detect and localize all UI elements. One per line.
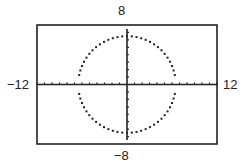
circle-point xyxy=(88,114,90,116)
ymax-label: 8 xyxy=(118,4,125,17)
circle-point xyxy=(83,106,85,108)
circle-point xyxy=(79,69,81,71)
circle-point xyxy=(126,35,128,37)
circle-point xyxy=(79,98,81,100)
circle-point xyxy=(140,37,142,39)
circle-point xyxy=(157,46,159,48)
circle-point xyxy=(169,61,171,63)
circle-point xyxy=(103,126,105,128)
circle-point xyxy=(99,43,101,45)
circle-point xyxy=(83,61,85,63)
circle-point xyxy=(171,65,173,67)
circle-point xyxy=(149,41,151,43)
circle-point xyxy=(81,102,83,104)
circle-point xyxy=(169,106,171,108)
circle-point xyxy=(85,110,87,112)
circle-point xyxy=(107,128,109,130)
circle-point xyxy=(136,131,138,133)
circle-point xyxy=(95,46,97,48)
circle-point xyxy=(81,65,83,67)
circle-point xyxy=(78,74,80,76)
circle-point xyxy=(160,118,162,120)
ymin-label: −8 xyxy=(114,149,129,162)
circle-point xyxy=(164,114,166,116)
circle-point xyxy=(174,93,176,95)
circle-point xyxy=(103,41,105,43)
circle-point xyxy=(153,124,155,126)
circle-point xyxy=(112,37,114,39)
xmax-label: 12 xyxy=(223,78,237,91)
circle-point xyxy=(171,102,173,104)
circle-point xyxy=(145,39,147,41)
circle-point xyxy=(112,130,114,132)
circle-point xyxy=(121,35,123,37)
circle-point xyxy=(153,43,155,45)
circle-point xyxy=(121,132,123,134)
plot-area xyxy=(0,0,242,167)
circle-point xyxy=(136,36,138,38)
circle-point xyxy=(160,49,162,51)
circle-point xyxy=(99,124,101,126)
circle-point xyxy=(164,53,166,55)
circle-point xyxy=(107,39,109,41)
circle-point xyxy=(167,110,169,112)
circle-point xyxy=(126,132,128,134)
circle-point xyxy=(92,49,94,51)
circle-point xyxy=(167,57,169,59)
circle-point xyxy=(149,126,151,128)
circle-point xyxy=(140,130,142,132)
circle-point xyxy=(92,118,94,120)
circle-point xyxy=(157,121,159,123)
circle-point xyxy=(173,98,175,100)
circle-point xyxy=(131,132,133,134)
circle-point xyxy=(95,121,97,123)
circle-point xyxy=(131,35,133,37)
circle-point xyxy=(174,74,176,76)
circle-point xyxy=(116,131,118,133)
xmin-label: −12 xyxy=(7,78,29,91)
circle-point xyxy=(78,93,80,95)
circle-point xyxy=(173,69,175,71)
circle-point xyxy=(145,128,147,130)
circle-point xyxy=(116,36,118,38)
circle-point xyxy=(85,57,87,59)
circle-point xyxy=(88,53,90,55)
